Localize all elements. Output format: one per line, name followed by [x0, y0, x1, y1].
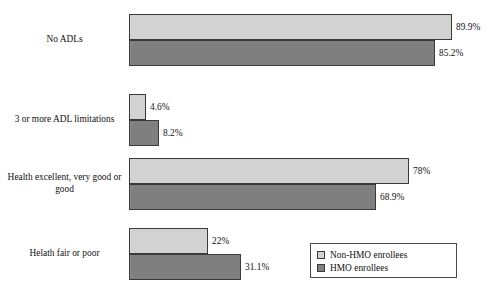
legend-item-non-hmo: Non-HMO enrollees: [317, 248, 448, 261]
bar-group: 89.9% 85.2%: [129, 14, 452, 66]
legend-swatch-icon: [317, 264, 325, 272]
category-group: 3 or more ADL limitations 4.6% 8.2%: [0, 94, 493, 146]
bar-row: 89.9%: [129, 14, 452, 40]
bar-non-hmo: [129, 158, 409, 184]
bar-value-label: 4.6%: [146, 102, 170, 112]
bar-non-hmo: [129, 94, 146, 120]
bar-value-label: 22%: [208, 236, 229, 246]
category-label: Helath fair or poor: [4, 248, 125, 260]
category-label-line: No ADLs: [4, 34, 125, 46]
category-label-line: good: [4, 184, 125, 196]
category-label: No ADLs: [4, 34, 125, 46]
bar-row: 31.1%: [129, 254, 241, 280]
bar-row: 78%: [129, 158, 409, 184]
bar-row: 68.9%: [129, 184, 409, 210]
bar-hmo: [129, 120, 159, 146]
category-label: 3 or more ADL limitations: [4, 114, 125, 126]
bar-row: 8.2%: [129, 120, 159, 146]
bar-chart: No ADLs 89.9% 85.2% 3 or more ADL limita…: [0, 0, 493, 288]
bar-hmo: [129, 40, 435, 66]
bar-value-label: 85.2%: [435, 48, 463, 58]
category-label-line: Helath fair or poor: [4, 248, 125, 260]
category-group: Health excellent, very good or good 78% …: [0, 158, 493, 210]
bar-value-label: 89.9%: [452, 22, 480, 32]
chart-legend: Non-HMO enrollees HMO enrollees: [310, 243, 457, 278]
bar-value-label: 78%: [409, 166, 430, 176]
bar-group: 4.6% 8.2%: [129, 94, 159, 146]
legend-label: Non-HMO enrollees: [330, 250, 407, 260]
bar-non-hmo: [129, 228, 208, 254]
bar-hmo: [129, 254, 241, 280]
bar-row: 22%: [129, 228, 241, 254]
bar-value-label: 68.9%: [376, 192, 404, 202]
category-label-line: Health excellent, very good or: [4, 172, 125, 184]
bar-value-label: 8.2%: [159, 128, 183, 138]
legend-item-hmo: HMO enrollees: [317, 261, 448, 274]
bar-group: 78% 68.9%: [129, 158, 409, 210]
bar-hmo: [129, 184, 376, 210]
legend-swatch-icon: [317, 251, 325, 259]
legend-label: HMO enrollees: [330, 263, 388, 273]
category-label: Health excellent, very good or good: [4, 172, 125, 195]
bar-group: 22% 31.1%: [129, 228, 241, 280]
category-group: No ADLs 89.9% 85.2%: [0, 14, 493, 66]
bar-row: 4.6%: [129, 94, 159, 120]
bar-value-label: 31.1%: [241, 262, 269, 272]
bar-row: 85.2%: [129, 40, 452, 66]
category-label-line: 3 or more ADL limitations: [4, 114, 125, 126]
bar-non-hmo: [129, 14, 452, 40]
